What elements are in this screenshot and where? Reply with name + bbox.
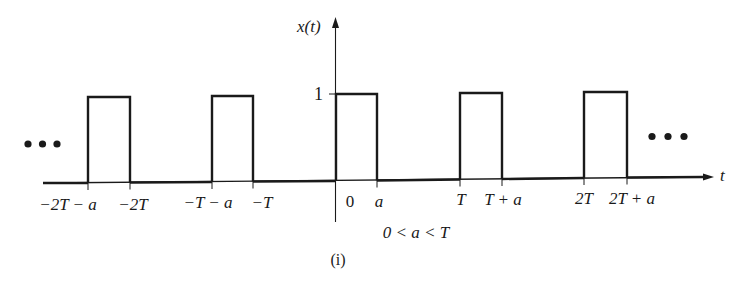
signal-baseline-seg-4 (502, 178, 584, 179)
figure-caption: (i) (330, 251, 345, 269)
signal-baseline-seg-2 (253, 181, 336, 182)
pulse-5 (584, 92, 627, 178)
amplitude-axis-arrow-icon (332, 17, 339, 28)
signal-baseline-seg-3 (377, 180, 460, 181)
tick-label-a: a (375, 192, 384, 211)
signal-baseline-seg-1 (130, 182, 212, 183)
tick-label-T-plus-a: T + a (484, 190, 522, 209)
tick-label-2T-plus-a: 2T + a (609, 189, 655, 208)
pulse-2 (212, 96, 253, 182)
pulse-1 (88, 97, 130, 183)
amplitude-axis (329, 17, 339, 222)
tick-label-2T: 2T (575, 189, 595, 208)
y-axis-label: x(t) (296, 17, 321, 36)
constraint-label: 0 < a < T (383, 223, 451, 242)
x-axis-label: t (720, 166, 726, 185)
tick-label-T: T (456, 190, 467, 209)
tick-label-zero: 0 (346, 192, 355, 211)
pulse-4 (460, 93, 502, 180)
ellipsis-left-icon (24, 140, 60, 147)
tick-label-negT: −T (252, 193, 274, 212)
signal-baseline-right (627, 177, 704, 178)
tick-label-neg2T-minus-a: −2T − a (39, 195, 97, 214)
signal-waveform (43, 92, 704, 183)
tick-labels: −2T − a −2T −T − a −T 0 a T T + a 2T 2T … (39, 189, 655, 214)
time-axis-arrow-icon (703, 174, 714, 181)
amplitude-label: 1 (314, 84, 323, 104)
ellipsis-right-icon (648, 133, 687, 140)
periodic-pulse-train-diagram: x(t) t 1 −2T − a −2T −T − a −T 0 a T T +… (0, 0, 749, 285)
tick-label-negT-minus-a: −T − a (183, 193, 232, 212)
pulse-3 (336, 94, 377, 181)
tick-label-neg2T: −2T (118, 195, 149, 214)
